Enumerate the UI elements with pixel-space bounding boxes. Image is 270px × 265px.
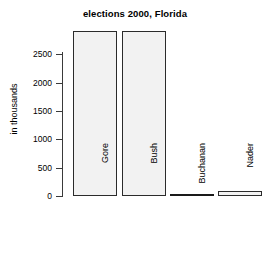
x-axis-label-bush: Bush: [149, 143, 159, 203]
bar-chart: elections 2000, Florida in thousands 050…: [0, 0, 270, 265]
bar-nader: [218, 191, 262, 196]
bar-series: [0, 0, 270, 265]
x-axis-label-buchanan: Buchanan: [197, 143, 207, 203]
bar-bush: [122, 31, 166, 196]
x-axis-label-nader: Nader: [245, 143, 255, 203]
bar-buchanan: [170, 194, 214, 197]
bar-gore: [73, 31, 117, 196]
x-axis-label-gore: Gore: [100, 143, 110, 203]
